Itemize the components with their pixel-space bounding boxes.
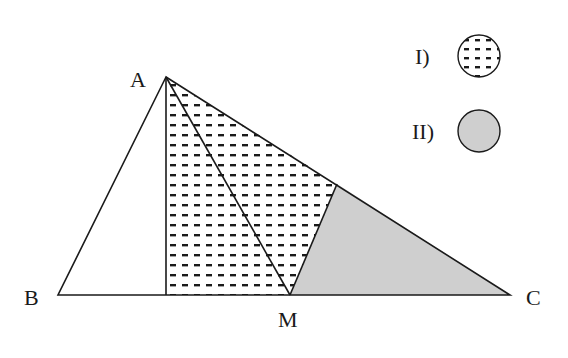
legend-swatch-II (458, 110, 500, 152)
label-c: C (526, 285, 541, 310)
label-m: M (278, 307, 298, 332)
legend-label-I: I) (415, 44, 430, 69)
legend: I) II) (412, 35, 500, 152)
triangle-diagram: A B M C I) II) (0, 0, 568, 358)
legend-label-II: II) (412, 119, 434, 144)
legend-swatch-I (458, 35, 500, 77)
label-a: A (130, 67, 146, 92)
label-b: B (24, 285, 39, 310)
